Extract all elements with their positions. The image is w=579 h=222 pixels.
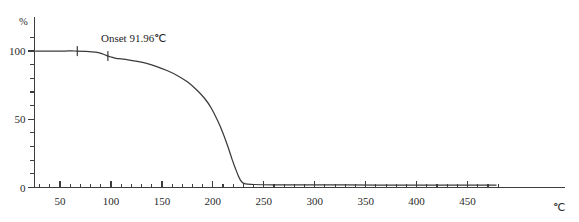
x-tick-label: 100: [103, 195, 120, 207]
x-tick-label: 450: [459, 195, 476, 207]
y-tick-label: 0: [20, 182, 26, 194]
x-tick-label: 400: [408, 195, 425, 207]
x-axis-tick-labels: 50100150200250300350400450: [54, 195, 476, 207]
tga-chart-page: 050100 50100150200250300350400450 % ℃ On…: [0, 0, 579, 222]
tga-chart: 050100 50100150200250300350400450 % ℃ On…: [0, 0, 579, 222]
x-tick-label: 50: [54, 195, 66, 207]
y-axis-unit-label: %: [19, 16, 28, 27]
x-tick-label: 150: [154, 195, 171, 207]
y-axis-tick-labels: 050100: [9, 45, 26, 194]
x-tick-label: 200: [205, 195, 222, 207]
x-tick-label: 350: [357, 195, 374, 207]
onset-annotation-label: Onset 91.96℃: [101, 32, 166, 44]
x-tick-label: 250: [256, 195, 273, 207]
y-tick-label: 50: [15, 113, 27, 125]
x-axis-unit-label: ℃: [553, 202, 565, 213]
x-tick-label: 300: [306, 195, 323, 207]
y-axis-ticks: [28, 37, 35, 187]
y-tick-label: 100: [9, 45, 26, 57]
tg-curve: [36, 51, 497, 185]
